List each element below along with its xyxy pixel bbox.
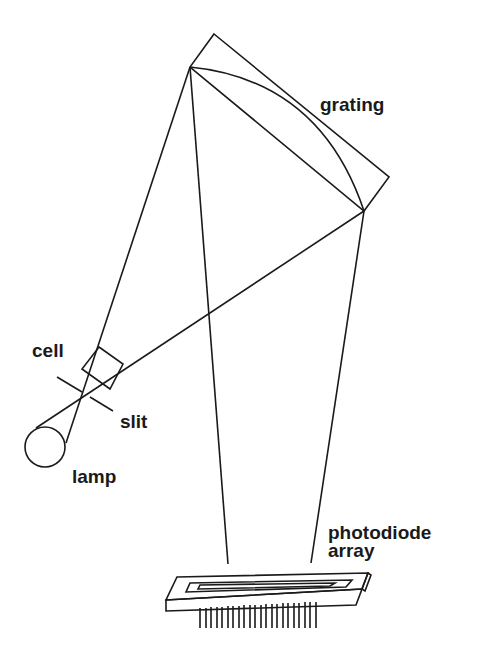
label-cell: cell: [32, 340, 64, 361]
photodiode-array-icon: [166, 573, 371, 628]
label-lamp: lamp: [72, 466, 116, 487]
ray-grating-to-detector-right: [311, 211, 364, 563]
slit-lower: [90, 397, 113, 411]
slit-upper: [57, 377, 82, 392]
ray-lamp-to-grating-lower: [36, 211, 364, 428]
ray-lamp-to-grating-upper: [66, 67, 190, 443]
label-array: array: [328, 540, 375, 561]
label-slit: slit: [120, 411, 148, 432]
lamp-icon: [25, 427, 65, 467]
spectrometer-diagram: grating cell slit lamp photodiode array: [0, 0, 484, 669]
cell-icon: [82, 347, 123, 389]
label-grating: grating: [320, 94, 384, 115]
ray-grating-to-detector-left: [190, 67, 228, 564]
grating-mount: [190, 34, 389, 211]
